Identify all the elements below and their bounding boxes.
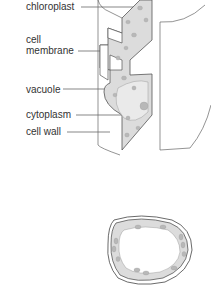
label-cytoplasm: cytoplasm <box>26 109 71 120</box>
cell-cross-section <box>108 216 192 284</box>
label-cell-membrane-line1: cell <box>26 34 41 45</box>
label-cell-wall: cell wall <box>26 126 61 137</box>
label-cell-membrane-line2: membrane <box>26 45 74 56</box>
label-vacuole: vacuole <box>26 84 60 95</box>
cytoplasm-slab <box>100 0 152 150</box>
label-chloroplast: chloroplast <box>26 1 74 12</box>
